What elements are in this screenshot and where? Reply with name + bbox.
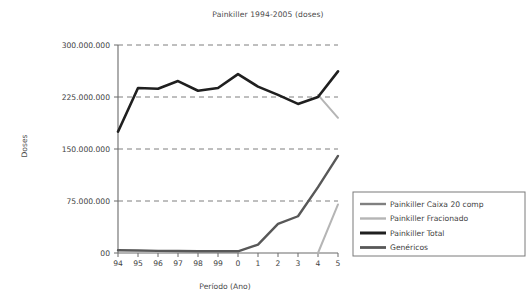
- x-tick-label-97: 97: [173, 259, 183, 268]
- x-tick-label-2: 2: [276, 259, 281, 268]
- x-tick-marks-group: [118, 253, 338, 257]
- chart-title: Painkiller 1994-2005 (doses): [212, 10, 323, 19]
- series-lines-group: [118, 71, 338, 253]
- series-line-gen-ricos: [118, 156, 338, 251]
- x-tick-label-99: 99: [213, 259, 223, 268]
- x-tick-label-4: 4: [316, 259, 321, 268]
- x-tick-label-98: 98: [193, 259, 203, 268]
- y-tick-label-00: 00: [100, 249, 110, 258]
- x-tick-label-0: 0: [236, 259, 241, 268]
- x-axis-title: Período (Ano): [199, 282, 250, 291]
- y-tick-label-225.000.000: 225.000.000: [62, 93, 110, 102]
- x-tick-label-5: 5: [336, 259, 341, 268]
- legend-label-painkiller-total[interactable]: Painkiller Total: [390, 229, 444, 238]
- legend-label-gen-ricos[interactable]: Genéricos: [390, 243, 428, 252]
- series-line-painkiller-fracionado: [318, 95, 338, 118]
- legend-label-painkiller-caixa-20-comp[interactable]: Painkiller Caixa 20 comp: [390, 200, 484, 209]
- x-tick-label-96: 96: [153, 259, 163, 268]
- y-tick-label-75.000.000: 75.000.000: [67, 197, 111, 206]
- y-tick-label-300.000.000: 300.000.000: [62, 41, 110, 50]
- x-tick-labels-group: 949596979899012345: [113, 259, 340, 268]
- chart-figure: Painkiller 1994-2005 (doses) Doses Perío…: [0, 0, 530, 301]
- x-tick-label-94: 94: [113, 259, 123, 268]
- x-tick-label-1: 1: [256, 259, 261, 268]
- legend-label-painkiller-fracionado[interactable]: Painkiller Fracionado: [390, 214, 469, 223]
- y-tick-marks-group: [114, 45, 118, 253]
- y-axis-title: Doses: [20, 134, 29, 157]
- x-tick-label-3: 3: [296, 259, 301, 268]
- y-tick-label-150.000.000: 150.000.000: [62, 145, 110, 154]
- y-tick-labels-group: 0075.000.000150.000.000225.000.000300.00…: [62, 41, 110, 258]
- gridlines-group: [118, 45, 338, 201]
- x-tick-label-95: 95: [133, 259, 143, 268]
- chart-legend[interactable]: Painkiller Caixa 20 compPainkiller Fraci…: [353, 192, 525, 256]
- series-line-painkiller-fracionado-lower-branch: [318, 204, 338, 253]
- series-line-painkiller-total: [118, 71, 338, 131]
- painkiller-line-chart: Painkiller 1994-2005 (doses) Doses Perío…: [0, 0, 530, 301]
